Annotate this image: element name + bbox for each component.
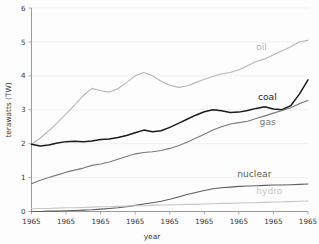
x-tick-label-2: 1965 (91, 217, 109, 226)
x-tick-label-1: 1965 (57, 217, 75, 226)
x-tick-label-4: 1965 (161, 217, 179, 226)
x-tick-label-7: 1965 (264, 217, 282, 226)
chart-canvas: 0123456 19651965196519651965196519651965… (0, 0, 319, 244)
y-tick-labels-group: 0123456 (21, 4, 26, 217)
y-axis-title: terawatts (TW) (4, 82, 13, 137)
x-tick-label-6: 1965 (230, 217, 248, 226)
series-labels-group: oilcoalgasnuclearhydro (237, 41, 283, 195)
x-axis-title: year (144, 232, 161, 241)
x-tick-label-0: 1965 (22, 217, 40, 226)
x-tick-label-3: 1965 (126, 217, 144, 226)
series-label-oil: oil (256, 41, 267, 52)
line-chart-figure: 0123456 19651965196519651965196519651965… (0, 0, 319, 244)
y-tick-label-3: 3 (21, 105, 26, 114)
y-tick-label-5: 5 (21, 38, 26, 47)
series-label-coal: coal (258, 91, 277, 102)
series-label-nuclear: nuclear (237, 168, 272, 179)
series-label-hydro: hydro (256, 185, 283, 196)
series-label-gas: gas (260, 116, 276, 127)
series-line-hydro (32, 201, 309, 209)
x-tick-label-8: 1965 (299, 217, 317, 226)
x-tick-labels-group: 196519651965196519651965196519651965 (22, 217, 317, 226)
y-tick-label-1: 1 (21, 173, 26, 182)
y-tick-label-4: 4 (21, 71, 26, 80)
y-tick-label-2: 2 (21, 139, 26, 148)
y-tick-label-0: 0 (21, 207, 26, 216)
series-line-coal (32, 80, 309, 146)
x-tick-label-5: 1965 (195, 217, 213, 226)
y-tick-label-6: 6 (21, 4, 26, 13)
